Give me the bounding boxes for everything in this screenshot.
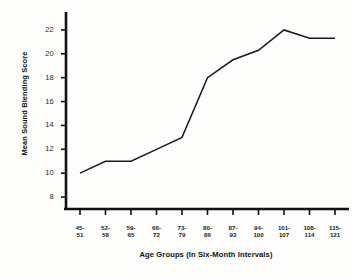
data-line-series xyxy=(80,30,335,173)
axis-lines xyxy=(64,12,349,210)
y-tick-label: 22 xyxy=(32,25,54,34)
y-tick-label: 8 xyxy=(32,192,54,201)
y-tick-label: 10 xyxy=(32,168,54,177)
y-tick-label: 16 xyxy=(32,97,54,106)
y-tick-label: 18 xyxy=(32,73,54,82)
y-tick-label: 12 xyxy=(32,144,54,153)
y-tick-label: 14 xyxy=(32,120,54,129)
line-chart-figure: Mean Sound Blending Score Age Groups (In… xyxy=(0,0,353,278)
x-tick-label: 115-121 xyxy=(320,224,350,238)
x-tick-label-line2: 121 xyxy=(320,231,350,238)
x-tick-label-line1: 115- xyxy=(320,224,350,231)
y-tick-label: 20 xyxy=(32,49,54,58)
